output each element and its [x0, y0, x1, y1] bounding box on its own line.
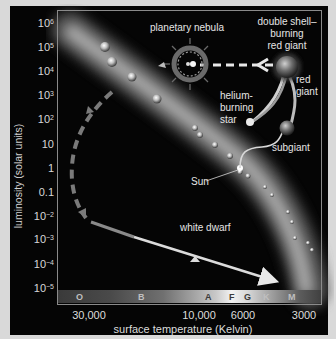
plot-area-frame — [57, 10, 322, 305]
y-tick-0-1: 0.1 — [39, 187, 54, 198]
spectral-class-k: K — [263, 292, 270, 302]
spectral-class-g: G — [244, 292, 251, 302]
spectral-class-a: A — [205, 292, 212, 302]
y-tick-1e2: 102 — [38, 114, 54, 125]
x-tick-6000: 6000 — [231, 309, 255, 321]
y-tick-10: 10 — [42, 139, 54, 150]
label-sun: Sun — [191, 176, 209, 188]
label-subgiant: subgiant — [272, 142, 310, 154]
label-white-dwarf: white dwarf — [180, 222, 231, 234]
label-planetary-nebula: planetary nebula — [150, 22, 224, 34]
spectral-class-m: M — [288, 292, 296, 302]
y-tick-1e5: 105 — [38, 42, 54, 53]
x-tick-10000: 10,000 — [182, 309, 216, 321]
y-axis-label: luminosity (solar units) — [12, 116, 24, 236]
spectral-class-f: F — [229, 292, 235, 302]
label-red-giant: red giant — [296, 74, 318, 98]
spectral-class-o: O — [76, 292, 83, 302]
y-tick-1e4: 104 — [38, 66, 54, 77]
y-tick-1e3: 103 — [38, 90, 54, 101]
x-tick-30000: 30,000 — [72, 309, 106, 321]
y-tick-1e-2: 10−2 — [34, 211, 54, 222]
x-tick-3000: 3000 — [292, 309, 316, 321]
y-tick-1e-3: 10−3 — [34, 234, 54, 245]
x-axis-label: surface temperature (Kelvin) — [0, 323, 336, 335]
spectral-class-b: B — [138, 292, 145, 302]
y-tick-1e-5: 10−5 — [34, 283, 54, 294]
y-tick-1e6: 106 — [38, 18, 54, 29]
y-tick-1e-4: 10−4 — [34, 259, 54, 270]
y-tick-1: 1 — [48, 163, 54, 174]
spectral-class-bar — [58, 290, 321, 303]
label-double-shell-red-giant: double shell– burning red giant — [249, 16, 325, 52]
label-helium-burning-star: helium- burning star — [220, 90, 253, 126]
